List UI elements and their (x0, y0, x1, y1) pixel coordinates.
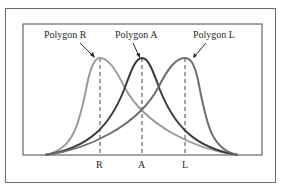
arrow-r-head (90, 52, 95, 58)
label-polygon-r: Polygon R (44, 29, 87, 40)
label-polygon-l: Polygon L (193, 29, 235, 40)
label-polygon-a: Polygon A (115, 29, 158, 40)
polygon-diagram: Polygon R Polygon A Polygon L R A L (0, 0, 284, 188)
tick-l: L (182, 159, 188, 170)
tick-r: R (96, 159, 103, 170)
arrow-a-head (136, 53, 140, 58)
tick-a: A (138, 159, 146, 170)
